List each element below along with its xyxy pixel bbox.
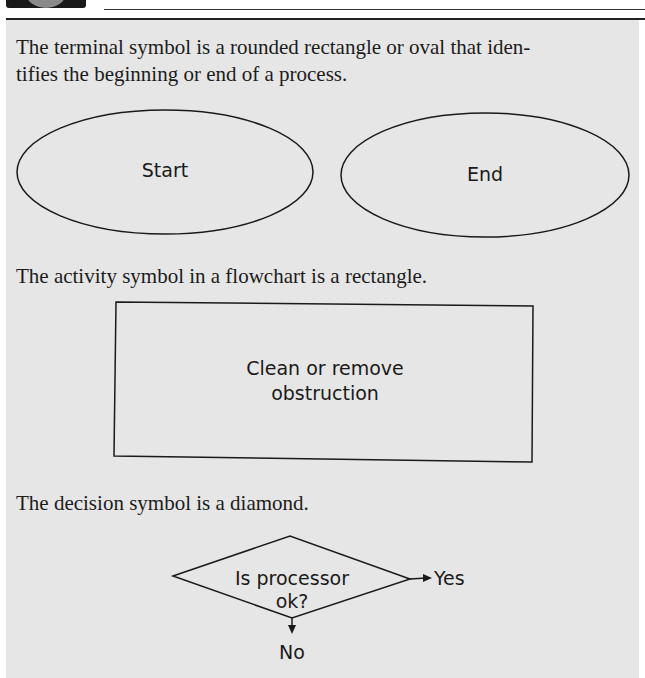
- activity-paragraph: The activity symbol in a flowchart is a …: [16, 263, 427, 290]
- activity-label-line-1: Clean or remove: [200, 356, 450, 380]
- no-label: No: [272, 640, 312, 664]
- decision-label-line-2: ok?: [220, 589, 364, 613]
- yes-label: Yes: [434, 566, 465, 590]
- end-label: End: [440, 162, 530, 186]
- no-arrow-head: [288, 625, 296, 634]
- yes-arrow-head: [423, 574, 432, 582]
- decision-label-line-1: Is processor: [220, 566, 364, 590]
- decision-paragraph: The decision symbol is a diamond.: [16, 490, 309, 517]
- start-label: Start: [118, 158, 212, 182]
- activity-label-line-2: obstruction: [200, 381, 450, 405]
